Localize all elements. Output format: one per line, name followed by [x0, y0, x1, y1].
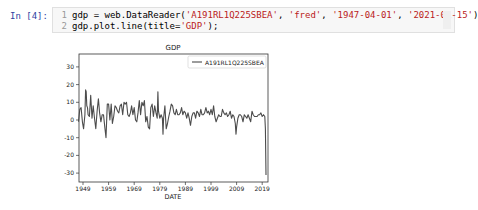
- code-text: ): [473, 10, 478, 20]
- x-tick-label: 1969: [127, 185, 142, 192]
- y-tick-label: -10: [64, 134, 74, 141]
- y-tick-label: 10: [66, 98, 74, 105]
- y-tick-label: 30: [66, 63, 74, 70]
- x-tick-label: 1989: [178, 185, 193, 192]
- x-tick-label: 1959: [101, 185, 116, 192]
- y-axis: -30-20-100102030: [64, 63, 79, 176]
- x-axis-label: DATE: [165, 193, 182, 201]
- x-tick-label: 1949: [75, 185, 90, 192]
- y-tick-label: 20: [66, 81, 74, 88]
- y-tick-label: -30: [64, 169, 74, 176]
- x-tick-label: 1979: [152, 185, 167, 192]
- x-tick-label: 2009: [229, 185, 244, 192]
- y-tick-label: -20: [64, 151, 74, 158]
- x-tick-label: 2019: [255, 185, 270, 192]
- x-axis: 19491959196919791989199920092019: [75, 182, 270, 192]
- legend: A191RL1Q225SBEA: [188, 56, 266, 68]
- y-tick-label: 0: [70, 116, 74, 123]
- plot-area: [79, 54, 268, 182]
- chart-title: GDP: [165, 44, 180, 52]
- x-tick-label: 1999: [203, 185, 218, 192]
- legend-label: A191RL1Q225SBEA: [205, 59, 265, 66]
